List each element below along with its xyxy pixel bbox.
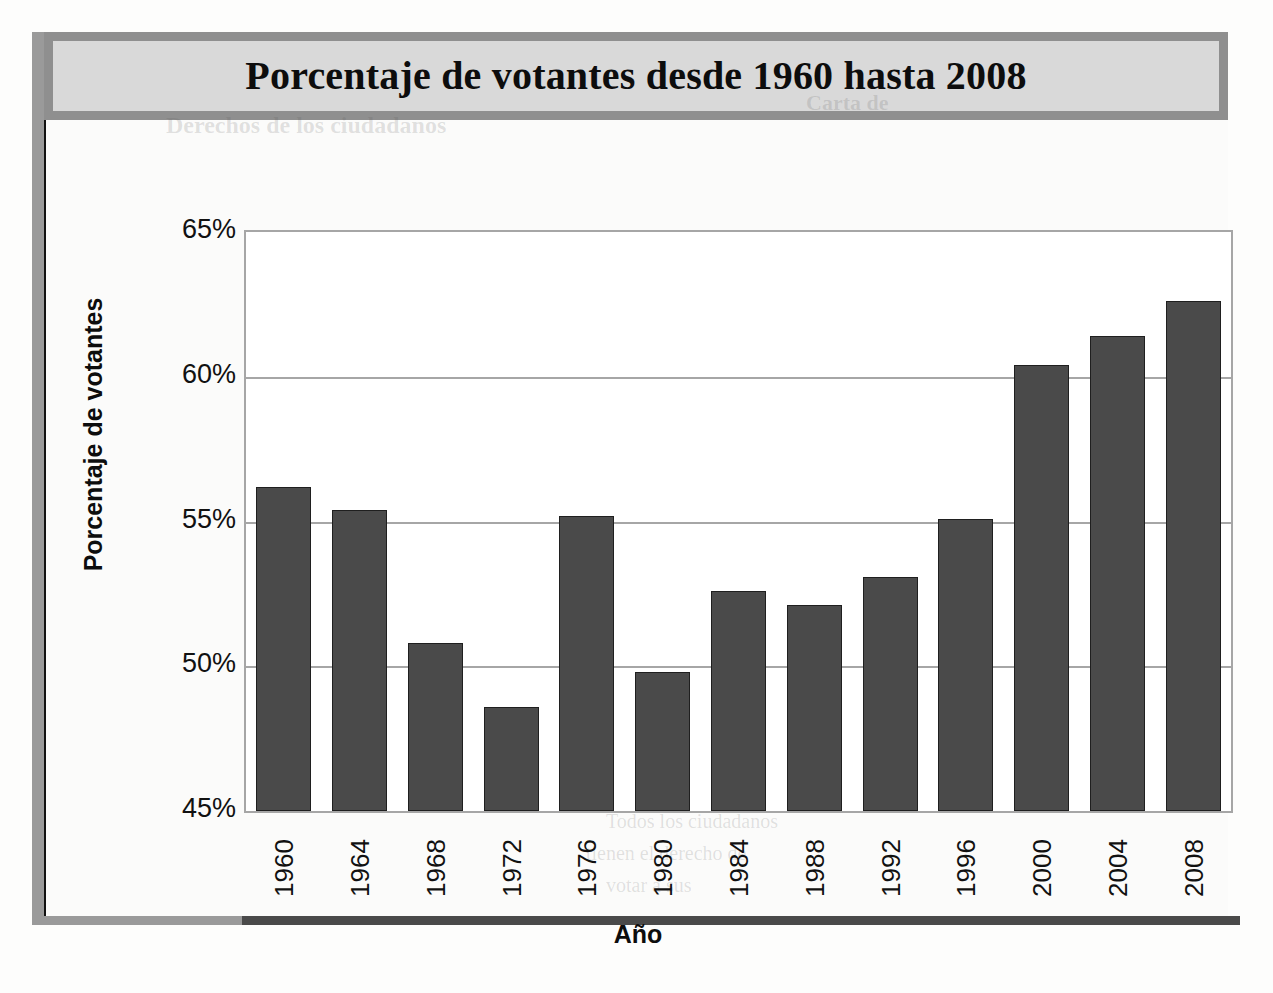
y-axis-tick-65: 65% (146, 216, 236, 243)
y-axis-tick-labels: 65%60%55%50%45% (136, 120, 236, 916)
bar-2000 (1014, 365, 1069, 811)
y-axis-tick-45: 45% (146, 795, 236, 822)
bar-1968 (408, 643, 463, 811)
y-axis-title: Porcentaje de votantes (79, 270, 108, 600)
bar-2004 (1090, 336, 1145, 811)
page-background: Porcentaje de votantes desde 1960 hasta … (0, 0, 1273, 993)
bar-2008 (1166, 301, 1221, 811)
x-axis-tick-1984: 1984 (711, 812, 766, 922)
x-axis-tick-label: 1976 (574, 813, 600, 923)
x-axis-tick-label: 1972 (499, 813, 525, 923)
chart-plot-body: Derechos de los ciudadanos Carta de Todo… (44, 120, 1228, 916)
x-axis-tick-1996: 1996 (938, 812, 993, 922)
x-axis-tick-label: 1992 (878, 813, 904, 923)
bar-1992 (863, 577, 918, 811)
x-axis-tick-label: 2004 (1105, 813, 1131, 923)
x-axis-tick-label: 1964 (347, 813, 373, 923)
x-axis-tick-label: 1984 (726, 813, 752, 923)
bar-1964 (332, 510, 387, 811)
bar-1984 (711, 591, 766, 811)
chart-title: Porcentaje de votantes desde 1960 hasta … (245, 56, 1026, 96)
x-axis-tick-label: 1980 (650, 813, 676, 923)
x-axis-tick-label: 1996 (953, 813, 979, 923)
y-axis-tick-60: 60% (146, 361, 236, 388)
x-axis-tick-label: 2000 (1029, 813, 1055, 923)
x-axis-tick-1972: 1972 (484, 812, 539, 922)
y-axis-tick-55: 55% (146, 506, 236, 533)
bar-series (246, 232, 1231, 811)
bar-1960 (256, 487, 311, 811)
bar-1988 (787, 605, 842, 811)
plot-area (244, 230, 1233, 813)
x-axis-tick-1976: 1976 (559, 812, 614, 922)
bar-1972 (484, 707, 539, 811)
x-axis-tick-2000: 2000 (1014, 812, 1069, 922)
x-axis-tick-1980: 1980 (635, 812, 690, 922)
x-axis-title: Año (46, 920, 1230, 949)
chart-figure-frame: Porcentaje de votantes desde 1960 hasta … (32, 32, 1240, 932)
x-axis-tick-2004: 2004 (1090, 812, 1145, 922)
x-axis-tick-1992: 1992 (863, 812, 918, 922)
x-axis-tick-label: 1988 (802, 813, 828, 923)
y-axis-tick-50: 50% (146, 650, 236, 677)
x-axis-tick-1988: 1988 (787, 812, 842, 922)
chart-title-bar: Porcentaje de votantes desde 1960 hasta … (44, 32, 1228, 120)
x-axis-tick-1964: 1964 (332, 812, 387, 922)
x-axis-tick-2008: 2008 (1166, 812, 1221, 922)
x-axis-tick-1960: 1960 (256, 812, 311, 922)
x-axis-tick-1968: 1968 (408, 812, 463, 922)
bar-1996 (938, 519, 993, 811)
x-axis-tick-labels: 1960196419681972197619801984198819921996… (246, 812, 1231, 932)
x-axis-tick-label: 2008 (1181, 813, 1207, 923)
bar-1980 (635, 672, 690, 811)
frame-left-rule (32, 32, 44, 924)
bar-1976 (559, 516, 614, 811)
x-axis-tick-label: 1960 (271, 813, 297, 923)
x-axis-tick-label: 1968 (423, 813, 449, 923)
